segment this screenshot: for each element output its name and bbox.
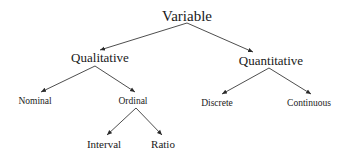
node-ratio: Ratio	[151, 138, 175, 150]
node-qualitative: Qualitative	[71, 50, 129, 65]
edge-variable-quantitative	[187, 23, 253, 52]
node-continuous: Continuous	[287, 98, 331, 108]
edges	[41, 23, 311, 135]
edge-ordinal-interval	[107, 108, 136, 135]
node-variable: Variable	[162, 8, 212, 24]
nodes: Variable Qualitative Quantitative Nomina…	[18, 8, 331, 150]
edge-quantitative-discrete	[222, 68, 269, 94]
node-quantitative: Quantitative	[239, 53, 303, 68]
variable-taxonomy-diagram: Variable Qualitative Quantitative Nomina…	[0, 0, 353, 160]
edge-variable-qualitative	[100, 23, 187, 50]
node-interval: Interval	[87, 138, 121, 150]
edge-quantitative-continuous	[269, 68, 311, 94]
node-discrete: Discrete	[201, 98, 233, 108]
node-ordinal: Ordinal	[118, 96, 147, 106]
diagram-canvas: Variable Qualitative Quantitative Nomina…	[0, 0, 353, 160]
edge-qualitative-nominal	[41, 66, 95, 92]
node-nominal: Nominal	[18, 96, 52, 106]
edge-qualitative-ordinal	[95, 66, 135, 92]
edge-ordinal-ratio	[136, 108, 162, 135]
